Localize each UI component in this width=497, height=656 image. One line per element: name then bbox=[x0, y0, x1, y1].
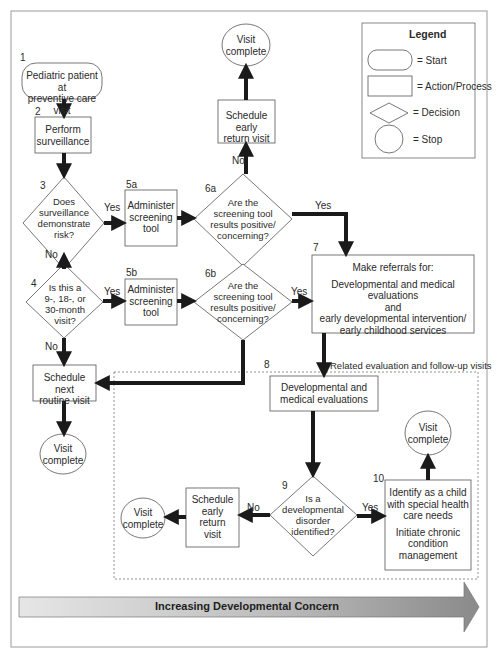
step-number-6b: 6b bbox=[205, 268, 216, 279]
edge-label-no: No bbox=[45, 249, 58, 260]
node-schedule-next-routine-visit: Schedule next routine visit bbox=[33, 372, 96, 407]
step-number-6a: 6a bbox=[205, 183, 216, 194]
decision-screening-positive-b: Are the screening tool results positive/… bbox=[203, 280, 283, 324]
node-start: Pediatric patient at preventive care vis… bbox=[22, 70, 102, 116]
edge-label-no: No bbox=[247, 502, 260, 513]
decision-milestone-visit: Is this a 9-, 18-, or 30-month visit? bbox=[34, 282, 96, 326]
stop-visit-complete-top: Visit complete bbox=[222, 34, 270, 57]
legend-start-label: = Start bbox=[417, 55, 447, 66]
node-special-health-care-needs: Identify as a child with special health … bbox=[385, 487, 471, 561]
step-number-8: 8 bbox=[264, 359, 270, 370]
edge-label-yes: Yes bbox=[104, 286, 120, 297]
decision-screening-positive-a: Are the screening tool results positive/… bbox=[203, 197, 283, 241]
step-number-7: 7 bbox=[313, 242, 319, 253]
legend-stop-label: = Stop bbox=[413, 134, 442, 145]
legend-title: Legend bbox=[409, 28, 446, 40]
step-number-2: 2 bbox=[35, 106, 41, 117]
stop-visit-complete-left: Visit complete bbox=[40, 443, 86, 466]
decision-disorder-identified: Is a developmental disorder identified? bbox=[273, 493, 353, 537]
edge-label-yes: Yes bbox=[315, 200, 331, 211]
legend-decision-label: = Decision bbox=[413, 107, 460, 118]
legend-process-shape bbox=[368, 76, 412, 96]
node-administer-screening-a: Administer screening tool bbox=[125, 200, 177, 235]
step-number-5b: 5b bbox=[126, 267, 137, 278]
decision-surveillance-risk: Does surveillance demonstrate risk? bbox=[30, 196, 98, 240]
edge-label-no: No bbox=[232, 155, 245, 166]
node-make-referrals: Make referrals for: Developmental and me… bbox=[312, 262, 474, 336]
legend-stop-shape bbox=[375, 125, 403, 153]
step-number-3: 3 bbox=[40, 180, 46, 191]
edge-label-yes: Yes bbox=[362, 502, 378, 513]
legend-start-shape bbox=[368, 50, 412, 70]
step-number-5a: 5a bbox=[126, 179, 137, 190]
step-number-10: 10 bbox=[373, 473, 384, 484]
node-schedule-early-return-top: Schedule early return visit bbox=[218, 110, 275, 145]
node-developmental-medical-evaluations: Developmental and medical evaluations bbox=[270, 382, 378, 405]
node-schedule-early-return-bottom: Schedule early return visit bbox=[186, 494, 239, 540]
node-perform-surveillance: Perform surveillance bbox=[35, 124, 91, 147]
step-number-9: 9 bbox=[282, 480, 288, 491]
region-8-label: Related evaluation and follow-up visits bbox=[330, 360, 492, 371]
step-number-1: 1 bbox=[20, 52, 26, 63]
edge-label-yes: Yes bbox=[104, 202, 120, 213]
legend-process-label: = Action/Process bbox=[417, 81, 492, 92]
edge-label-yes: Yes bbox=[291, 286, 307, 297]
stop-visit-complete-right: Visit complete bbox=[405, 422, 451, 445]
increasing-concern-label: Increasing Developmental Concern bbox=[155, 600, 339, 612]
edge-label-no: No bbox=[45, 341, 58, 352]
stop-visit-complete-bottom: Visit complete bbox=[121, 507, 165, 530]
node-administer-screening-b: Administer screening tool bbox=[125, 284, 177, 319]
